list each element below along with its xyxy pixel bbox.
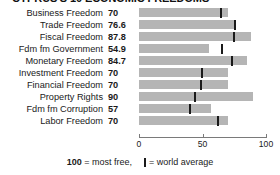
world-average-tick-icon — [201, 68, 203, 78]
chart-body: Business Freedom70Trade Freedom76.6Fisca… — [0, 7, 280, 135]
chart-title: CYPRUS'S 10 ECONOMIC FREEDOMS — [12, 0, 209, 4]
world-average-tick-icon — [231, 56, 233, 66]
axis-tick-mark — [266, 134, 267, 138]
world-average-tick-icon — [234, 20, 236, 30]
chart-row-value: 57 — [108, 103, 134, 115]
chart-row-label: Fdm fm Government — [0, 43, 103, 55]
chart-row-label: Financial Freedom — [0, 79, 103, 91]
chart-bar-track — [139, 116, 266, 125]
world-average-tick-icon — [220, 8, 222, 18]
chart-row-value: 76.6 — [108, 19, 134, 31]
chart-row: Financial Freedom70 — [0, 79, 280, 91]
chart-bar-track — [139, 32, 266, 41]
chart-row: Fdm fm Government54.9 — [0, 43, 280, 55]
chart-bar-track — [139, 20, 266, 29]
chart-bar — [139, 8, 228, 17]
chart-row-label: Trade Freedom — [0, 19, 103, 31]
chart-bar — [139, 44, 209, 53]
chart-bar — [139, 20, 236, 29]
world-average-tick-icon — [189, 104, 191, 114]
chart-bar-track — [139, 68, 266, 77]
chart-row: Labor Freedom70 — [0, 115, 280, 127]
world-average-tick-icon — [194, 92, 196, 102]
chart-row: Fdm fm Corruption57 — [0, 103, 280, 115]
world-average-tick-icon — [221, 44, 223, 54]
chart-bar-track — [139, 56, 266, 65]
legend-world-average-label: = world average — [149, 157, 213, 167]
chart-bar-track — [139, 80, 266, 89]
chart-bar-track — [139, 8, 266, 17]
chart-row-value: 90 — [108, 91, 134, 103]
chart-row-label: Labor Freedom — [0, 115, 103, 127]
chart-row-label: Fiscal Freedom — [0, 31, 103, 43]
chart-row-value: 70 — [108, 79, 134, 91]
legend-most-free-value: 100 — [67, 157, 82, 167]
chart-row-label: Fdm fm Corruption — [0, 103, 103, 115]
axis-tick-label: 100 — [259, 139, 273, 149]
chart-row: Trade Freedom76.6 — [0, 19, 280, 31]
chart-row: Property Rights90 — [0, 91, 280, 103]
chart-bar — [139, 92, 253, 101]
chart-row-value: 84.7 — [108, 55, 134, 67]
chart-x-axis: 050100 — [0, 134, 280, 154]
axis-tick-label: 50 — [198, 139, 208, 149]
chart-bar — [139, 68, 228, 77]
chart-row: Fiscal Freedom87.8 — [0, 31, 280, 43]
axis-tick-label: 0 — [137, 139, 142, 149]
chart-bar — [139, 116, 228, 125]
world-average-tick-icon — [200, 80, 202, 90]
chart-row-label: Business Freedom — [0, 7, 103, 19]
chart-row-value: 70 — [108, 7, 134, 19]
chart-row: Investment Freedom70 — [0, 67, 280, 79]
chart-bar — [139, 80, 228, 89]
chart-row-value: 70 — [108, 115, 134, 127]
chart-title-strip: CYPRUS'S 10 ECONOMIC FREEDOMS — [0, 0, 280, 7]
chart-legend: 100 = most free, = world average — [0, 155, 280, 169]
chart-bar-track — [139, 92, 266, 101]
chart-row: Business Freedom70 — [0, 7, 280, 19]
axis-tick-mark — [139, 134, 140, 138]
chart-row-label: Property Rights — [0, 91, 103, 103]
chart-row-value: 54.9 — [108, 43, 134, 55]
world-average-tick-icon — [233, 32, 235, 42]
legend-most-free: 100 = most free, — [67, 157, 144, 167]
chart-bar — [139, 104, 211, 113]
chart-row: Monetary Freedom84.7 — [0, 55, 280, 67]
world-average-tick-icon — [144, 158, 146, 167]
legend-most-free-label: = most free, — [82, 157, 132, 167]
axis-tick-mark — [203, 134, 204, 138]
chart-bar-track — [139, 44, 266, 53]
chart-row-value: 87.8 — [108, 31, 134, 43]
world-average-tick-icon — [217, 116, 219, 126]
chart-row-value: 70 — [108, 67, 134, 79]
chart-row-label: Monetary Freedom — [0, 55, 103, 67]
chart-bar-track — [139, 104, 266, 113]
chart-row-label: Investment Freedom — [0, 67, 103, 79]
